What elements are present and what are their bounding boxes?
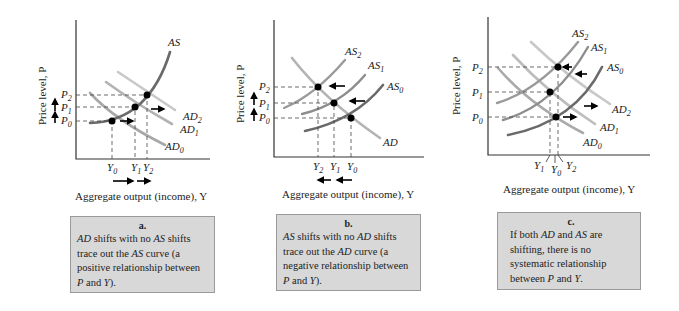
panel-a-p0-guide bbox=[76, 121, 112, 159]
panel-b-as0-label: AS0 bbox=[386, 80, 403, 95]
panel-a-y0-label: Y0 bbox=[107, 161, 117, 176]
panel-b-p2-label: P2 bbox=[258, 80, 270, 95]
caption-symbol: AD bbox=[541, 229, 555, 240]
caption-box-b: b. AS shifts with no AD shifts trace out… bbox=[276, 214, 421, 291]
panel-c-as0-curve bbox=[508, 67, 602, 135]
panel-a-as-label: AS bbox=[167, 36, 181, 48]
panel-a-x-axis-title: Aggregate output (income), Y bbox=[75, 190, 207, 203]
panel-b-as0-curve bbox=[305, 85, 383, 131]
panel-a-ad0-curve bbox=[90, 93, 165, 145]
panel-a-as-curve bbox=[90, 52, 170, 123]
panel-b-p0-label: P0 bbox=[258, 111, 270, 126]
panel-b-p2-guide bbox=[274, 87, 318, 157]
panel-b-x-axis-title: Aggregate output (income), Y bbox=[282, 188, 414, 201]
caption-run: and bbox=[289, 275, 309, 286]
panel-c-p1-label: P1 bbox=[471, 86, 483, 101]
caption-box-c: c. If both AD and AS are shifting, there… bbox=[497, 212, 641, 290]
panel-a-p0-label: P0 bbox=[60, 114, 72, 129]
panel-a-y2-label: Y2 bbox=[143, 161, 153, 176]
panel-c-as0-label: AS0 bbox=[606, 61, 623, 76]
panel-b-p1-label: P1 bbox=[258, 97, 270, 112]
panel-a-y1-label: Y1 bbox=[131, 161, 141, 176]
caption-text-a: AD shifts with no AS shifts trace out th… bbox=[77, 233, 200, 288]
caption-run: If both bbox=[510, 229, 541, 240]
panel-c: AS2 AS1 AS0 AD2 AD1 AD0 P2 P1 P0 Y1 Y0 Y… bbox=[450, 17, 650, 196]
panel-c-y2-label: Y2 bbox=[566, 159, 576, 174]
panel-c-ad1-label: AD1 bbox=[599, 121, 619, 136]
panel-a-ad2-curve bbox=[118, 72, 175, 110]
caption-run: and bbox=[83, 277, 103, 288]
panel-c-equilibrium-point bbox=[555, 64, 562, 71]
caption-symbol: AS bbox=[153, 233, 165, 244]
panel-c-y-axis-title: Price level, P bbox=[450, 57, 462, 115]
caption-run: ). bbox=[316, 275, 322, 286]
caption-symbol: AS bbox=[283, 231, 295, 242]
caption-symbol: AS bbox=[132, 248, 144, 259]
panel-c-y-tick-marks bbox=[546, 155, 563, 163]
panel-c-y0-label: Y0 bbox=[551, 163, 561, 178]
caption-run: shifts with no bbox=[91, 233, 153, 244]
panel-b-equilibrium-point bbox=[331, 100, 338, 107]
caption-letter-a: a. bbox=[77, 220, 208, 232]
panel-c-ad2-label: AD2 bbox=[611, 103, 631, 118]
panel-b-p0-guide bbox=[274, 118, 351, 157]
caption-symbol: AD bbox=[77, 233, 91, 244]
panel-c-equilibrium-point bbox=[547, 89, 554, 96]
panel-c-as2-label: AS2 bbox=[571, 27, 588, 42]
caption-run: and bbox=[555, 229, 575, 240]
caption-box-a: a. AD shifts with no AS shifts trace out… bbox=[70, 216, 215, 293]
caption-symbol: AS bbox=[575, 229, 587, 240]
panel-b-as2-label: AS2 bbox=[344, 45, 361, 60]
caption-text-b: AS shifts with no AD shifts trace out th… bbox=[283, 231, 408, 286]
panel-c-as1-label: AS1 bbox=[590, 41, 607, 56]
panel-a-equilibrium-point bbox=[144, 92, 151, 99]
caption-run: and bbox=[554, 273, 574, 284]
panel-a-ad0-label: AD0 bbox=[164, 140, 184, 155]
panel-b-y1-label: Y1 bbox=[330, 160, 340, 175]
panel-b-equilibrium-point bbox=[315, 84, 322, 91]
panel-a-equilibrium-point bbox=[132, 104, 139, 111]
panel-c-y1-label: Y1 bbox=[534, 159, 544, 174]
caption-letter-b: b. bbox=[283, 218, 414, 230]
panel-b-y0-label: Y0 bbox=[347, 160, 357, 175]
caption-symbol: AD bbox=[338, 246, 352, 257]
caption-text-c: If both AD and AS are shifting, there is… bbox=[510, 229, 607, 284]
panel-b-p1-guide bbox=[274, 103, 334, 157]
caption-symbol: AD bbox=[357, 231, 371, 242]
panel-b-as1-label: AS1 bbox=[367, 59, 384, 74]
panel-c-ad0-label: AD0 bbox=[582, 136, 602, 151]
panel-a-equilibrium-point bbox=[109, 118, 116, 125]
panel-c-equilibrium-point bbox=[553, 114, 560, 121]
caption-run: ). bbox=[110, 277, 116, 288]
panel-c-p0-label: P0 bbox=[471, 111, 483, 126]
panel-c-x-axis-title: Aggregate output (income), Y bbox=[503, 183, 635, 196]
panel-b-ad-label: AD bbox=[382, 136, 398, 148]
panel-a: AS AD2 AD1 AD0 P2 P1 P0 Y0 Y1 Y2 Price l… bbox=[36, 20, 210, 203]
caption-run: . bbox=[580, 273, 583, 284]
panel-a-ad1-label: AD1 bbox=[179, 123, 199, 138]
caption-run: shifts with no bbox=[295, 231, 357, 242]
panel-b-equilibrium-point bbox=[348, 115, 355, 122]
panel-b-y2-label: Y2 bbox=[313, 160, 323, 175]
caption-letter-c: c. bbox=[510, 216, 632, 228]
panel-a-y-axis-title: Price level, P bbox=[36, 67, 48, 125]
panel-b: AS2 AS1 AS0 AD P2 P1 P0 Y2 Y1 Y0 Price l… bbox=[234, 20, 424, 201]
panel-b-y-axis-title: Price level, P bbox=[234, 65, 246, 123]
panel-c-p2-label: P2 bbox=[471, 61, 483, 76]
